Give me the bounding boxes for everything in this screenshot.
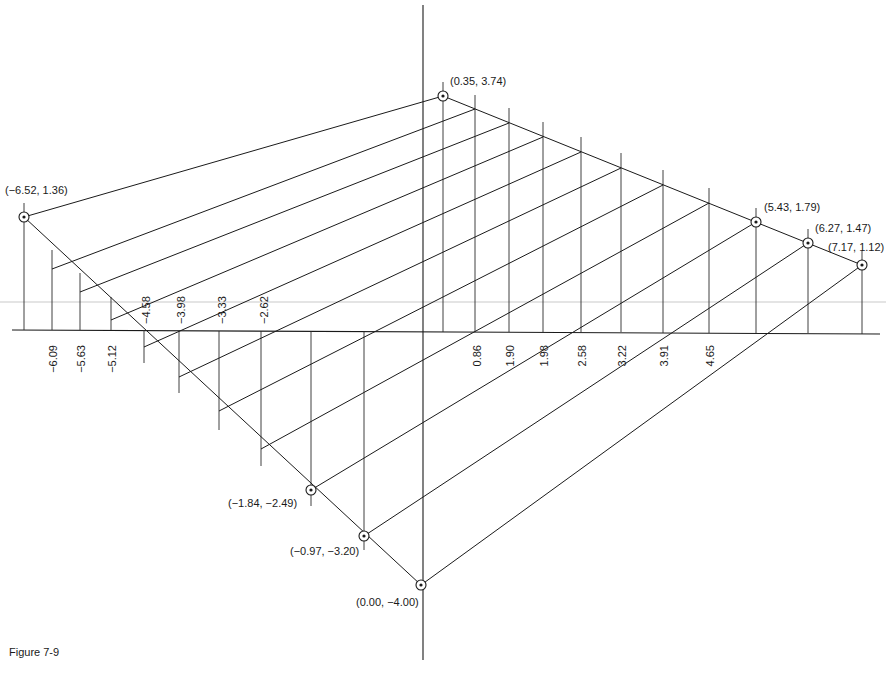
top-left-edge bbox=[24, 96, 443, 217]
tick-label: −4.58 bbox=[140, 296, 152, 324]
point-dot-icon bbox=[441, 94, 444, 97]
point-label: (−6.52, 1.36) bbox=[5, 184, 68, 196]
parallel-line bbox=[179, 168, 621, 377]
point-label: (6.27, 1.47) bbox=[815, 222, 871, 234]
horizontal-axis bbox=[12, 330, 880, 334]
parallel-line bbox=[364, 243, 808, 536]
axes bbox=[12, 5, 880, 660]
tick-label: −3.98 bbox=[175, 296, 187, 324]
construction-diagram: (−6.52, 1.36)(0.35, 3.74)(5.43, 1.79)(6.… bbox=[0, 0, 886, 674]
tick-label: 4.65 bbox=[704, 345, 716, 366]
parallel-line bbox=[219, 185, 663, 411]
tick-label: −5.12 bbox=[106, 345, 118, 373]
tick-label: −3.33 bbox=[216, 296, 228, 324]
labeled-points: (−6.52, 1.36)(0.35, 3.74)(5.43, 1.79)(6.… bbox=[5, 75, 884, 608]
point-marker: (0.35, 3.74) bbox=[438, 75, 506, 101]
point-marker: (−0.97, −3.20) bbox=[290, 531, 369, 557]
parallel-line bbox=[80, 123, 509, 292]
tick-label: −6.09 bbox=[47, 345, 59, 373]
point-dot-icon bbox=[860, 263, 863, 266]
tick-label: 1.90 bbox=[504, 345, 516, 366]
tick-labels: −6.09−5.63−5.120.861.901.982.583.223.914… bbox=[47, 296, 716, 373]
top-right-edge bbox=[443, 96, 862, 265]
point-dot-icon bbox=[22, 215, 25, 218]
tick-label: 3.91 bbox=[658, 345, 670, 366]
tick-label: 3.22 bbox=[616, 345, 628, 366]
parallel-line bbox=[261, 203, 709, 449]
parallel-line bbox=[52, 109, 475, 269]
point-marker: (0.00, −4.00) bbox=[356, 580, 426, 608]
point-label: (−1.84, −2.49) bbox=[228, 497, 297, 509]
tick-label: −5.63 bbox=[75, 345, 87, 373]
point-marker: (−6.52, 1.36) bbox=[5, 184, 68, 222]
tick-label: 1.98 bbox=[538, 345, 550, 366]
point-marker: (7.17, 1.12) bbox=[828, 241, 884, 270]
point-dot-icon bbox=[806, 241, 809, 244]
point-marker: (−1.84, −2.49) bbox=[228, 485, 316, 509]
point-dot-icon bbox=[419, 583, 422, 586]
point-dot-icon bbox=[362, 534, 365, 537]
point-label: (−0.97, −3.20) bbox=[290, 545, 359, 557]
point-label: (5.43, 1.79) bbox=[764, 201, 820, 213]
parallel-line bbox=[144, 152, 581, 347]
figure-caption: Figure 7-9 bbox=[9, 646, 59, 658]
point-dot-icon bbox=[754, 220, 757, 223]
point-label: (7.17, 1.12) bbox=[828, 241, 884, 253]
point-label: (0.00, −4.00) bbox=[356, 596, 419, 608]
point-label: (0.35, 3.74) bbox=[450, 75, 506, 87]
bottom-left-edge bbox=[24, 217, 421, 585]
point-marker: (5.43, 1.79) bbox=[751, 201, 820, 227]
tick-label: −2.62 bbox=[258, 296, 270, 324]
parallel-line bbox=[311, 222, 756, 490]
tick-label: 0.86 bbox=[471, 345, 483, 366]
parallel-construction-lines bbox=[52, 109, 862, 585]
tick-label: 2.58 bbox=[576, 345, 588, 366]
parallel-line bbox=[421, 265, 862, 585]
point-dot-icon bbox=[309, 488, 312, 491]
